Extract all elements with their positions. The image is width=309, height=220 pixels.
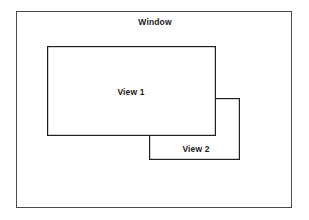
view2-label: View 2 [182,145,209,154]
diagram-canvas: Window View 1 View 2 [0,0,309,220]
diagram-vector-layer [0,0,309,220]
window-label: Window [138,18,171,27]
view1-label: View 1 [117,88,144,97]
